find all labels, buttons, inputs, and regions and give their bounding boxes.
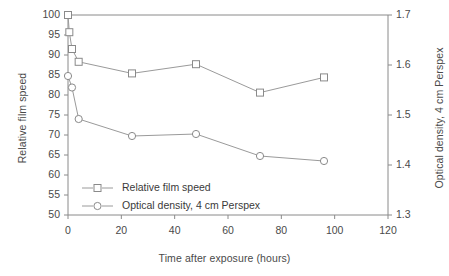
series-group — [64, 12, 327, 165]
data-point-s0-0 — [65, 12, 72, 19]
data-point-s0-1 — [66, 29, 73, 36]
data-point-s0-7 — [321, 74, 328, 81]
legend-marker-1 — [94, 202, 101, 209]
data-point-s0-3 — [75, 58, 82, 65]
legend-item-optical-density: Optical density, 4 cm Perspex — [122, 199, 260, 211]
data-point-s1-0 — [64, 72, 71, 79]
series-line-1 — [68, 76, 324, 161]
legend-item-relative-film-speed: Relative film speed — [122, 181, 211, 193]
data-point-s1-3 — [128, 132, 135, 139]
data-point-s0-5 — [193, 61, 200, 68]
axes-group — [64, 15, 392, 219]
data-point-s0-6 — [257, 89, 264, 96]
plot-area — [0, 0, 449, 276]
data-point-s1-5 — [256, 152, 263, 159]
data-point-s0-2 — [69, 46, 76, 53]
data-point-s1-6 — [320, 157, 327, 164]
data-point-s1-2 — [75, 115, 82, 122]
data-point-s0-4 — [129, 70, 136, 77]
legend-markers — [82, 185, 113, 210]
chart-container: Relative film speed Optical density, 4 c… — [0, 0, 449, 276]
legend-marker-0 — [94, 185, 101, 192]
series-line-0 — [68, 15, 324, 93]
data-point-s1-4 — [192, 130, 199, 137]
data-point-s1-1 — [68, 84, 75, 91]
